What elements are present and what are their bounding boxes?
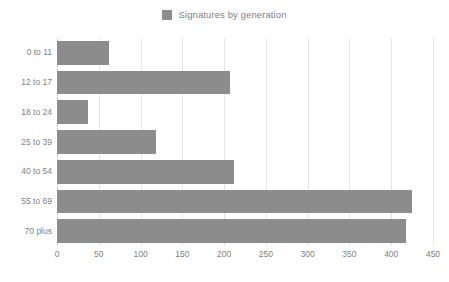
- bar-row: [57, 219, 433, 243]
- bar-row: [57, 71, 433, 95]
- x-axis-label: 200: [217, 250, 231, 259]
- bar-row: [57, 41, 433, 65]
- x-axis: 050100150200250300350400450: [57, 250, 433, 264]
- bar-row: [57, 190, 433, 214]
- x-axis-label: 0: [55, 250, 60, 259]
- x-axis-label: 450: [426, 250, 440, 259]
- x-axis-label: 100: [133, 250, 147, 259]
- bar: [57, 219, 406, 243]
- plot-area: [57, 38, 433, 246]
- x-axis-label: 300: [301, 250, 315, 259]
- y-axis-label: 18 to 24: [0, 108, 52, 117]
- chart-legend: Signatures by generation: [0, 10, 449, 20]
- bar: [57, 160, 234, 184]
- y-axis-label: 55 to 69: [0, 197, 52, 206]
- y-axis-label: 40 to 54: [0, 167, 52, 176]
- gridline: [433, 38, 434, 246]
- bar: [57, 41, 109, 65]
- y-axis-label: 25 to 39: [0, 138, 52, 147]
- x-axis-label: 150: [175, 250, 189, 259]
- bar-row: [57, 130, 433, 154]
- y-axis-label: 0 to 11: [0, 48, 52, 57]
- y-axis-label: 70 plus: [0, 227, 52, 236]
- bar: [57, 190, 412, 214]
- bar: [57, 71, 230, 95]
- x-axis-label: 350: [342, 250, 356, 259]
- bar-series: [57, 38, 433, 246]
- y-axis-label: 12 to 17: [0, 78, 52, 87]
- y-axis: 0 to 1112 to 1718 to 2425 to 3940 to 545…: [0, 38, 52, 246]
- legend-label: Signatures by generation: [178, 10, 286, 20]
- x-axis-label: 400: [384, 250, 398, 259]
- bar: [57, 100, 88, 124]
- bar: [57, 130, 156, 154]
- bar-chart: Signatures by generation 0 to 1112 to 17…: [0, 0, 449, 282]
- x-axis-label: 50: [94, 250, 103, 259]
- bar-row: [57, 160, 433, 184]
- bar-row: [57, 100, 433, 124]
- legend-swatch-icon: [162, 10, 172, 20]
- x-axis-label: 250: [259, 250, 273, 259]
